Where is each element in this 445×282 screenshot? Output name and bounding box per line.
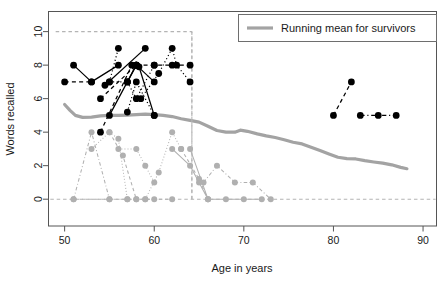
y-tick-label-8: 8	[32, 62, 44, 68]
y-tick-label-2: 2	[32, 163, 44, 169]
data-point-gray-dashdot-i-0	[201, 179, 207, 185]
x-tick-label-80: 80	[328, 234, 340, 246]
data-point-gray-baseline-j-6	[169, 196, 175, 202]
data-point-gray-solid-h-1	[205, 196, 211, 202]
data-point-gray-baseline-j-5	[151, 196, 157, 202]
data-point-black-dotted-d-1	[133, 78, 140, 85]
data-point-gray-baseline-j-0	[71, 196, 77, 202]
data-point-black-dotted-b-3	[151, 62, 158, 69]
data-point-gray-dotted-c-2	[142, 163, 148, 169]
data-point-black-solid-c-1	[142, 45, 149, 52]
data-point-gray-dashed-d-0	[106, 129, 112, 135]
data-point-gray-solid-h-3	[241, 196, 247, 202]
data-point-gray-dotted-c-1	[133, 146, 139, 152]
data-point-black-dashed-a-0	[61, 78, 68, 85]
data-point-gray-baseline-j-4	[142, 196, 148, 202]
data-point-black-dashed-e-0	[330, 112, 337, 119]
x-tick-label-50: 50	[59, 234, 71, 246]
data-point-black-dashed-a-1	[88, 78, 95, 85]
x-tick-label-90: 90	[417, 234, 429, 246]
data-point-black-dashdot-f-2	[393, 112, 400, 119]
data-point-gray-baseline-j-3	[133, 196, 139, 202]
data-point-black-dotted-c-4	[187, 78, 194, 85]
data-point-black-solid-a-0	[70, 62, 77, 69]
data-point-black-dashed-b-0	[97, 95, 104, 102]
data-point-black-dotted-b-0	[106, 78, 113, 85]
data-point-black-dashed-d-0	[133, 62, 140, 69]
data-point-black-solid-d-1	[151, 78, 158, 85]
data-point-gray-dotted-c-0	[115, 146, 121, 152]
legend-entry-label: Running mean for survivors	[281, 22, 416, 34]
data-point-gray-solid-f-0	[169, 146, 175, 152]
data-point-gray-dashdot-i-4	[268, 196, 274, 202]
y-tick-label-6: 6	[32, 96, 44, 102]
data-point-black-dotted-c-2	[169, 45, 176, 52]
data-point-gray-solid-f-1	[187, 163, 193, 169]
data-point-black-solid-a-2	[115, 62, 122, 69]
data-point-black-dashed-c-0	[97, 129, 104, 136]
y-tick-label-4: 4	[32, 129, 44, 135]
data-point-gray-dotted-b-0	[89, 146, 95, 152]
y-axis-title: Words recalled	[4, 82, 16, 155]
data-point-gray-solid-h-2	[223, 196, 229, 202]
data-point-gray-baseline-j-1	[106, 196, 112, 202]
data-point-black-dotted-c-1	[155, 70, 162, 77]
x-tick-label-60: 60	[148, 234, 160, 246]
chart-plot-area: 50607080900246810 Words recalled Age in …	[0, 0, 445, 282]
data-point-gray-solid-h-4	[259, 196, 265, 202]
data-point-black-dashdot-f-1	[375, 112, 382, 119]
data-point-black-dashed-e-1	[348, 78, 355, 85]
data-point-gray-dotted-e-2	[169, 129, 175, 135]
y-tick-label-0: 0	[32, 196, 44, 202]
data-point-black-dotted-c-0	[137, 95, 144, 102]
data-point-gray-solid-h-0	[187, 146, 193, 152]
data-point-black-dotted-a-1	[115, 45, 122, 52]
chart-figure: 50607080900246810 Words recalled Age in …	[0, 0, 445, 282]
x-axis-title: Age in years	[211, 262, 273, 274]
data-point-black-dotted-c-3	[173, 62, 180, 69]
data-point-black-solid-b-0	[106, 112, 113, 119]
data-point-gray-dashdot-i-1	[214, 163, 220, 169]
x-tick-label-70: 70	[238, 234, 250, 246]
data-point-gray-dashed-g-0	[178, 146, 184, 152]
data-point-gray-dotted-e-1	[156, 169, 162, 175]
data-point-black-dotted-d-2	[151, 112, 158, 119]
data-point-gray-baseline-j-2	[124, 196, 130, 202]
data-point-black-dotted-b-1	[124, 78, 131, 85]
data-point-black-dashed-d-3	[187, 62, 194, 69]
chart-legend: Running mean for survivors	[239, 15, 437, 42]
y-tick-label-10: 10	[32, 26, 44, 38]
data-point-gray-dashdot-a-1	[89, 129, 95, 135]
data-point-gray-dashdot-i-3	[250, 179, 256, 185]
data-point-black-dotted-d-0	[124, 109, 131, 116]
data-point-gray-dotted-c-3	[151, 179, 157, 185]
data-point-gray-dashdot-i-2	[232, 179, 238, 185]
data-point-gray-dotted-b-2	[115, 136, 121, 142]
data-point-black-dashdot-f-0	[357, 112, 364, 119]
data-point-gray-dashed-d-1	[120, 153, 126, 159]
